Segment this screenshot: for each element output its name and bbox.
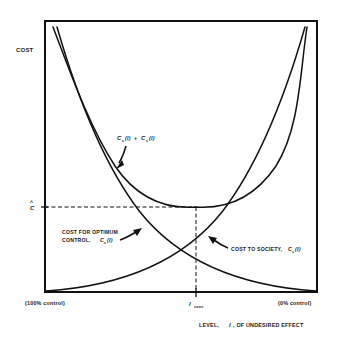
y-axis-tick-label-symbol: C xyxy=(30,205,35,211)
control-cost-annotation: COST FOR OPTIMUM CONTROL, C c (l) xyxy=(62,228,142,245)
total-cost-annotation-arrow xyxy=(119,146,126,163)
society-cost-arrow-head xyxy=(208,236,217,244)
x-axis-right-label: (0% control) xyxy=(278,300,312,306)
society-cost-annotation-arg: (l) xyxy=(295,246,301,252)
x-axis-left-label: (100% control) xyxy=(25,300,65,306)
cost-optimum-control-figure: COST C ^ l cons (100% control) (0% contr… xyxy=(0,0,343,337)
control-cost-annotation-line2-pre: CONTROL, xyxy=(62,237,91,243)
x-axis-tick-label-symbol: l xyxy=(189,301,191,307)
total-cost-annotation-plus: + xyxy=(134,135,137,141)
total-cost-annotation: C c (l) + C s (l) xyxy=(116,135,155,169)
x-axis-title-post: , OF UNDESIRED EFFECT xyxy=(233,322,304,328)
curve-total-cost xyxy=(53,27,307,207)
x-axis-tick-label-subscript: cons xyxy=(194,305,204,309)
chart-svg: COST C ^ l cons (100% control) (0% contr… xyxy=(0,0,343,337)
x-axis-title-pre: LEVEL, xyxy=(199,322,219,328)
x-axis-title-symbol: l xyxy=(229,322,231,328)
control-cost-annotation-arg: (l) xyxy=(107,237,113,243)
total-cost-annotation-arg2: (l) xyxy=(149,135,155,141)
society-cost-annotation-arrow xyxy=(214,240,228,248)
y-axis-tick-label-chat: C ^ xyxy=(30,199,35,211)
y-axis-tick-label-hat: ^ xyxy=(30,199,33,205)
total-cost-annotation-sub1: c xyxy=(122,139,124,143)
control-cost-annotation-line1: COST FOR OPTIMUM xyxy=(62,229,118,235)
y-axis-title: COST xyxy=(16,47,34,53)
control-cost-annotation-arrow xyxy=(120,232,136,240)
x-axis-tick-label-lcons: l cons xyxy=(189,301,204,309)
control-cost-arrow-head xyxy=(133,228,142,236)
society-cost-annotation: COST TO SOCIETY, C s (l) xyxy=(208,236,301,254)
total-cost-annotation-sub2: s xyxy=(146,139,148,143)
total-cost-annotation-arg1: (l) xyxy=(125,135,131,141)
control-cost-annotation-subscript: c xyxy=(104,241,106,245)
society-cost-annotation-text: COST TO SOCIETY, xyxy=(231,246,283,252)
x-axis-title: LEVEL, l , OF UNDESIRED EFFECT xyxy=(199,322,304,328)
society-cost-annotation-subscript: s xyxy=(292,250,294,254)
